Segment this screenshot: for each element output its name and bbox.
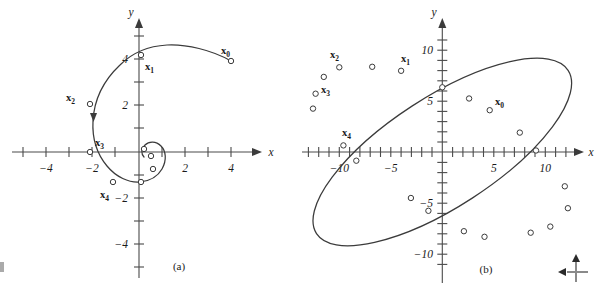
panel-b-point-x0 — [487, 108, 492, 113]
panel-a-trajectory-curve — [93, 45, 231, 182]
panel-b-point-x8 — [321, 74, 326, 79]
panel-b-ellipse: −10 −5 5 10 x — [299, 0, 598, 293]
panel-a-y-axis-label: y — [127, 6, 134, 19]
panel-b-point-x14 — [482, 234, 487, 239]
panel-a-spiral: −4 −2 2 4 x — [0, 0, 299, 293]
panel-b-point-x3 — [313, 91, 318, 96]
panel-b-point-x15 — [528, 230, 533, 235]
panel-a-caption: (a) — [173, 260, 186, 273]
panel-b-point-x9 — [310, 106, 315, 111]
panel-a-point-x0 — [228, 58, 233, 63]
panel-b-ytick-label-neg5: −5 — [419, 197, 433, 209]
panel-b-xtick-label-10: 10 — [540, 162, 552, 174]
panel-a-point-x4 — [110, 179, 115, 184]
panel-a-label-x4: x4 — [100, 189, 109, 203]
panel-b-point-x16 — [548, 224, 553, 229]
panel-b-y-axis-label: y — [430, 6, 437, 19]
panel-a-xtick-label-4: 4 — [228, 162, 234, 174]
panel-b-point-x20 — [517, 130, 522, 135]
panel-a-point-x3 — [87, 149, 92, 154]
panel-a-ytick-label-2: 2 — [122, 99, 128, 111]
panel-a-data-points — [87, 52, 233, 184]
panel-b-point-x17 — [565, 206, 570, 211]
panel-b-xtick-label-neg5: −5 — [384, 162, 398, 174]
panel-a-point-x8 — [141, 146, 146, 151]
panel-a-x-axis-label: x — [267, 146, 274, 158]
panel-a-point-x2 — [87, 101, 92, 106]
panel-b-point-x18 — [562, 184, 567, 189]
panel-b-point-x10 — [354, 158, 359, 163]
panel-b-point-x12 — [426, 208, 431, 213]
panel-b-label-x1: x1 — [401, 53, 410, 67]
panel-a-label-x1: x1 — [145, 61, 154, 75]
panel-a-xtick-label-neg2: −2 — [85, 162, 99, 174]
panel-b-point-x19 — [533, 148, 538, 153]
move-axes-cursor-icon[interactable] — [556, 252, 592, 288]
panel-a-y-axis: 4 2 −2 −4 y — [114, 6, 144, 278]
cursor-icon-svg — [556, 252, 592, 288]
panel-b-x-axis-label: x — [587, 146, 594, 158]
panel-b-ytick-label-10: 10 — [422, 44, 434, 56]
panel-a-xtick-label-2: 2 — [182, 162, 188, 174]
panel-b-ytick-label-neg10: −10 — [414, 248, 434, 260]
panel-b-caption: (b) — [480, 263, 493, 276]
panel-b-label-x3: x3 — [321, 84, 330, 98]
panel-b-point-x2 — [337, 65, 342, 70]
panel-a-point-labels: x0 x1 x2 x3 x4 — [66, 45, 230, 203]
panel-b-y-axis: 10 5 −5 −10 y — [414, 6, 448, 283]
panel-a-ytick-label-neg4: −4 — [114, 238, 128, 250]
panel-b-label-x0: x0 — [495, 96, 504, 110]
panel-a-point-x7 — [148, 153, 153, 158]
panel-a-point-x1 — [138, 52, 143, 57]
panel-b-svg: −10 −5 5 10 x — [299, 0, 598, 293]
panel-b-point-x6 — [440, 85, 445, 90]
panel-b-point-labels: x0 x1 x2 x3 x4 — [321, 49, 504, 141]
panel-a-xtick-label-neg4: −4 — [39, 162, 53, 174]
panel-b-point-x5 — [466, 96, 471, 101]
panel-b-point-x1 — [398, 68, 403, 73]
panel-b-xtick-label-5: 5 — [491, 162, 497, 174]
panel-a-direction-arrow — [90, 113, 97, 122]
panel-b-point-x13 — [461, 229, 466, 234]
panel-a-point-x5 — [138, 179, 143, 184]
panel-b-point-x7 — [370, 64, 375, 69]
panel-b-label-x4: x4 — [342, 127, 351, 141]
panel-a-label-x2: x2 — [66, 92, 75, 106]
panel-a-point-x6 — [150, 166, 155, 171]
panel-b-ytick-label-5: 5 — [427, 95, 433, 107]
panel-b-point-x11 — [408, 195, 413, 200]
panel-b-label-x2: x2 — [330, 49, 339, 63]
figure-canvas: −4 −2 2 4 x — [0, 0, 598, 293]
panel-a-svg: −4 −2 2 4 x — [0, 0, 299, 293]
panel-b-point-x4 — [341, 143, 346, 148]
panel-a-ytick-label-neg2: −2 — [114, 192, 128, 204]
